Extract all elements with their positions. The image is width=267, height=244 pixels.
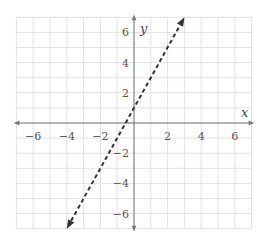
arrowhead-icon (177, 17, 184, 27)
tick-labels: −6−4−2246642−2−4−6 (25, 26, 238, 220)
x-tick-label: −2 (92, 130, 108, 143)
y-axis-label: y (139, 21, 148, 36)
arrowhead-icon (67, 219, 74, 229)
y-tick-label: −2 (113, 147, 129, 160)
x-tick-label: 6 (231, 130, 238, 143)
y-tick-label: 4 (122, 57, 129, 70)
x-axis-label: x (241, 105, 249, 120)
x-tick-label: 4 (198, 130, 205, 143)
coordinate-plane: −6−4−2246642−2−4−6 x y (0, 0, 267, 244)
x-tick-label: −6 (25, 130, 41, 143)
y-tick-label: 6 (122, 26, 129, 39)
y-tick-label: −6 (113, 208, 129, 221)
x-tick-label: 2 (164, 130, 171, 143)
y-tick-label: −4 (113, 177, 129, 190)
x-tick-label: −4 (59, 130, 75, 143)
y-tick-label: 2 (122, 87, 129, 100)
